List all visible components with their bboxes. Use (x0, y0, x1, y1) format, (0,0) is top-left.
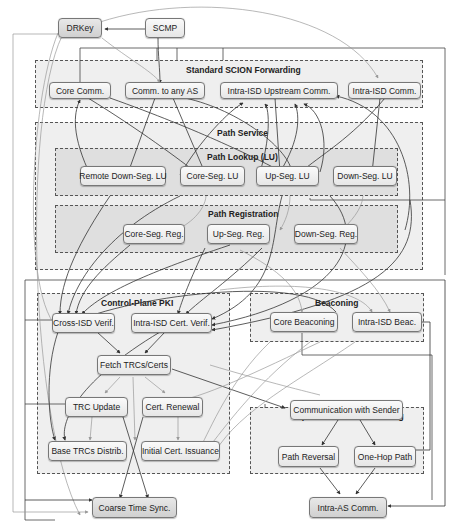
node-core-comm[interactable]: Core Comm. (49, 82, 111, 99)
node-path-reversal[interactable]: Path Reversal (278, 446, 339, 467)
node-one-hop-path[interactable]: One-Hop Path (354, 446, 416, 467)
node-trc-update[interactable]: TRC Update (65, 397, 128, 417)
node-down-seg-reg[interactable]: Down-Seg. Reg. (294, 224, 358, 244)
node-fetch-trcs-certs[interactable]: Fetch TRCs/Certs (97, 355, 171, 375)
group-title: Standard SCION Forwarding (186, 65, 301, 75)
group-title: Path Registration (208, 209, 278, 219)
node-communication-with-sender[interactable]: Communication with Sender (290, 400, 403, 420)
node-remote-down-seg-lu[interactable]: Remote Down-Seg. LU (80, 166, 166, 186)
group-title: Path Service (217, 128, 268, 138)
dependency-diagram: Standard SCION Forwarding Path Service P… (0, 0, 466, 531)
node-core-seg-reg[interactable]: Core-Seg. Reg. (123, 224, 185, 244)
node-up-seg-reg[interactable]: Up-Seg. Reg. (207, 224, 270, 244)
node-cert-renewal[interactable]: Cert. Renewal (142, 397, 203, 417)
node-cross-isd-verif[interactable]: Cross-ISD Verif. (52, 313, 115, 333)
node-core-seg-lu[interactable]: Core-Seg. LU (180, 166, 245, 186)
node-intra-isd-cert-verif[interactable]: Intra-ISD Cert. Verif. (131, 313, 212, 333)
group-title: Beaconing (315, 298, 358, 308)
node-up-seg-lu[interactable]: Up-Seg. LU (256, 166, 319, 186)
node-intra-isd-beac[interactable]: Intra-ISD Beac. (352, 312, 422, 332)
node-base-trcs-distrib[interactable]: Base TRCs Distrib. (48, 441, 127, 461)
node-intra-as-comm[interactable]: Intra-AS Comm. (309, 497, 387, 518)
node-down-seg-lu[interactable]: Down-Seg. LU (333, 166, 397, 186)
node-drkey[interactable]: DRKey (58, 18, 102, 38)
node-core-beaconing[interactable]: Core Beaconing (270, 312, 338, 332)
group-title: Control-Plane PKI (101, 298, 173, 308)
node-coarse-time-sync[interactable]: Coarse Time Sync. (92, 497, 177, 518)
node-intra-isd-upstream-comm[interactable]: Intra-ISD Upstream Comm. (220, 82, 338, 99)
node-initial-cert-issuance[interactable]: Initial Cert. Issuance (141, 441, 220, 461)
node-scmp[interactable]: SCMP (145, 18, 185, 38)
group-title: Path Lookup (LU) (207, 152, 278, 162)
node-intra-isd-comm[interactable]: Intra-ISD Comm. (348, 82, 421, 99)
node-comm-to-any-as[interactable]: Comm. to any AS (125, 82, 205, 99)
